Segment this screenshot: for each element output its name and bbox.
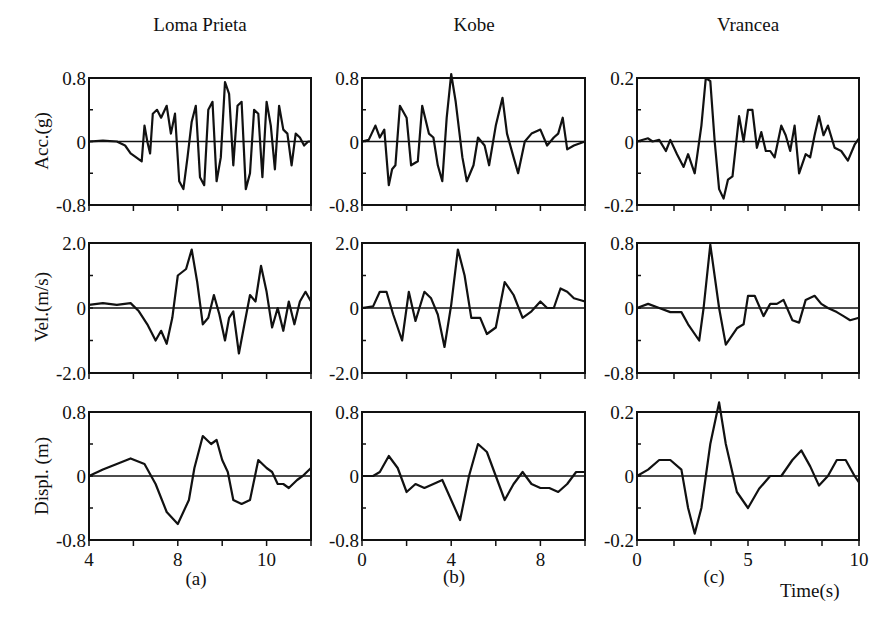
y-tick-label: -0.8 <box>329 195 359 216</box>
ylabel-acceleration: Acc.(g) <box>31 71 53 211</box>
panel-label-c: (c) <box>694 566 734 588</box>
x-tick-label: 5 <box>743 549 753 570</box>
y-tick-label: 0 <box>77 132 87 153</box>
y-tick-label: 0 <box>77 298 87 319</box>
x-tick-label: 10 <box>257 549 276 570</box>
y-tick-label: 0.8 <box>335 68 359 89</box>
x-tick-label: 10 <box>850 549 869 570</box>
waveform-trace <box>362 74 585 185</box>
y-tick-label: 0 <box>625 298 635 319</box>
x-tick-label: 0 <box>357 549 367 570</box>
y-tick-label: 0 <box>625 132 635 153</box>
waveform-trace <box>362 250 585 348</box>
x-tick-label: 0 <box>632 549 642 570</box>
y-tick-label: -0.2 <box>604 530 634 551</box>
y-tick-label: 2.0 <box>335 233 359 254</box>
x-axis-unit-label: Time(s) <box>780 580 839 602</box>
panel-label-a: (a) <box>176 568 216 590</box>
ylabel-velocity: Vel.(m/s) <box>31 237 53 377</box>
plot-acc-vrancea: 0.20-0.2 <box>604 68 859 216</box>
panel-label-b: (b) <box>434 566 474 588</box>
waveform-trace <box>637 245 859 345</box>
plot-displ-vrancea: 0.20-0.20510 <box>604 402 869 570</box>
y-tick-label: 2.0 <box>62 233 86 254</box>
plot-vel-vrancea: 0.80-0.8 <box>604 233 859 384</box>
y-tick-label: 0 <box>350 298 360 319</box>
plot-acc-loma-prieta: 0.80-0.8 <box>56 68 311 216</box>
y-tick-label: 0.8 <box>335 402 359 423</box>
y-tick-label: 0.2 <box>610 68 634 89</box>
column-title-vrancea: Vrancea <box>648 14 848 36</box>
y-tick-label: 0 <box>77 466 87 487</box>
waveform-trace <box>637 402 859 533</box>
seismic-figure: 0.80-0.80.80-0.80.20-0.22.00-2.02.00-2.0… <box>0 0 893 621</box>
waveform-trace <box>362 444 585 520</box>
y-tick-label: -2.0 <box>329 363 359 384</box>
y-tick-label: 0.8 <box>62 402 86 423</box>
y-tick-label: 0 <box>350 132 360 153</box>
y-tick-label: 0.8 <box>62 68 86 89</box>
plot-acc-kobe: 0.80-0.8 <box>329 68 585 216</box>
y-tick-label: -0.8 <box>56 195 86 216</box>
plot-displ-loma-prieta: 0.80-0.84810 <box>56 402 311 570</box>
x-tick-label: 8 <box>173 549 183 570</box>
y-tick-label: -0.8 <box>604 363 634 384</box>
waveform-trace <box>89 436 311 524</box>
x-tick-label: 4 <box>84 549 94 570</box>
plot-displ-kobe: 0.80-0.8048 <box>329 402 585 570</box>
y-tick-label: -0.8 <box>329 530 359 551</box>
y-tick-label: 0 <box>350 466 360 487</box>
column-title-kobe: Kobe <box>374 14 574 36</box>
ylabel-displacement: Displ. (m) <box>31 406 53 546</box>
plot-vel-kobe: 2.00-2.0 <box>329 233 585 384</box>
y-tick-label: 0.8 <box>610 233 634 254</box>
y-tick-label: -2.0 <box>56 363 86 384</box>
waveform-trace <box>89 82 311 189</box>
waveform-trace <box>637 78 859 199</box>
column-title-loma-prieta: Loma Prieta <box>100 14 300 36</box>
x-tick-label: 8 <box>536 549 546 570</box>
plot-vel-loma-prieta: 2.00-2.0 <box>56 233 311 384</box>
y-tick-label: 0 <box>625 466 635 487</box>
y-tick-label: -0.8 <box>56 530 86 551</box>
y-tick-label: 0.2 <box>610 402 634 423</box>
waveform-trace <box>89 250 311 354</box>
y-tick-label: -0.2 <box>604 195 634 216</box>
